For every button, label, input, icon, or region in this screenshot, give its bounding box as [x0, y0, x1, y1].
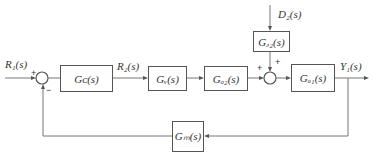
sum2-plus-sign-left: +	[257, 63, 262, 73]
measurement-block: Gₘ(s)	[172, 121, 204, 152]
sum2-plus-sign-top: +	[275, 57, 280, 67]
process2-block: Gₒ₂(s)	[204, 66, 248, 91]
sum1-plus-sign: +	[31, 68, 36, 78]
input-signal-label: R₁(s)	[5, 58, 27, 70]
process1-block: Gₒ₁(s)	[291, 64, 335, 92]
disturbance-signal-label: D₂(s)	[278, 8, 301, 20]
disturbance-block: Gₔ₂(s)	[253, 31, 290, 52]
block-diagram: R₁(s) + − Gᴄ(s) R₂(s) Gᵥ(s) Gₒ₂(s) D₂(s)…	[0, 0, 373, 158]
summing-junction-2	[264, 72, 276, 84]
controller-block: Gᴄ(s)	[60, 65, 113, 92]
output-signal-label: Y₁(s)	[340, 60, 362, 72]
intermediate-signal-label: R₂(s)	[117, 60, 139, 72]
valve-block: Gᵥ(s)	[148, 66, 187, 91]
sum1-minus-sign: −	[46, 85, 51, 95]
summing-junction-1	[36, 72, 48, 84]
